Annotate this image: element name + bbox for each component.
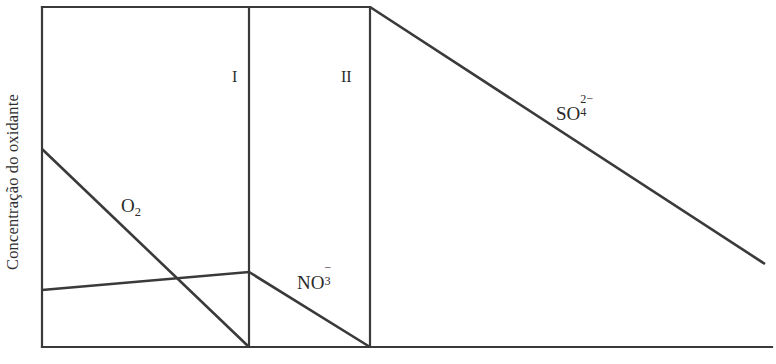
curve-label-so4: SO2−4 [556,101,600,123]
y-axis-title: Concentração do oxidante [0,0,26,364]
data-series [42,7,765,347]
curve-label-o2: O2 [121,196,141,218]
series-line-o2 [42,149,249,347]
redox-zonation-figure: Concentração do oxidante I II O2 NO−3 SO… [0,0,776,364]
plot-frame [42,7,772,347]
plot-canvas [0,0,776,364]
zone-label-ii: II [341,68,352,86]
zone-label-i: I [232,68,237,86]
curve-label-no3: NO−3 [297,270,344,292]
series-line-so4 [370,7,765,264]
